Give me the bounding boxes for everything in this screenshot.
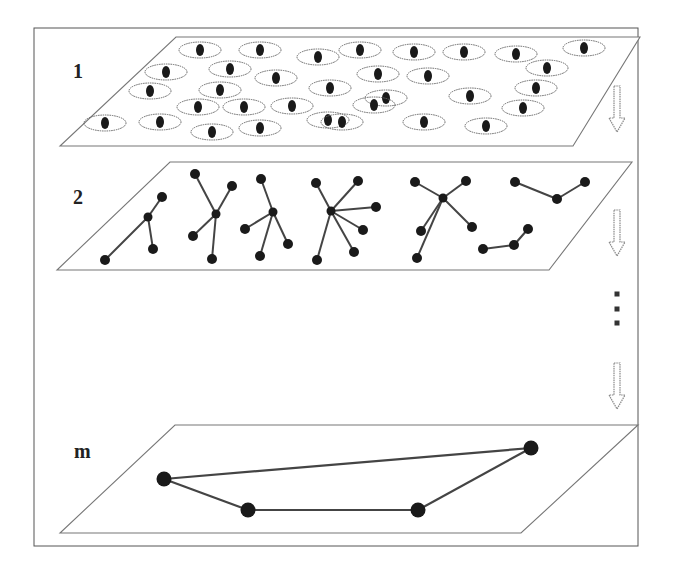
layer-2-label: 2 <box>73 186 83 209</box>
layer-1 <box>60 37 640 146</box>
down-arrow-icon <box>609 86 625 132</box>
layer-m <box>60 425 638 533</box>
layer-plane <box>57 162 632 270</box>
down-arrow-icon <box>609 210 625 256</box>
layer-plane <box>60 425 638 533</box>
ellipsis-dot <box>615 292 620 297</box>
ellipsis-dot <box>615 307 620 312</box>
hierarchy-diagram <box>0 0 675 584</box>
layer-1-label: 1 <box>73 60 83 83</box>
down-arrow-icon <box>609 363 625 409</box>
arrows-group <box>609 86 625 409</box>
layer-m-label: m <box>74 440 91 463</box>
ellipsis-dot <box>615 321 620 326</box>
layer-2 <box>57 162 632 270</box>
layers-group <box>57 37 640 533</box>
